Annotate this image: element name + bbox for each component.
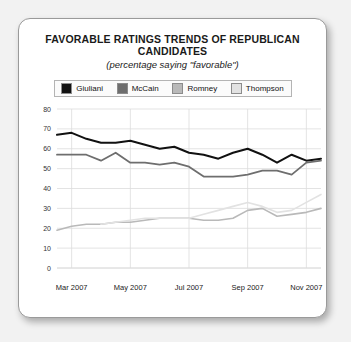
- x-axis-tick-label: Jul 2007: [175, 283, 203, 292]
- legend-swatch-mccain: [117, 83, 128, 94]
- chart-subtitle: (percentage saying "favorable"): [19, 59, 326, 70]
- legend-label-giuliani: Giuliani: [76, 84, 103, 93]
- grid-group: [57, 109, 321, 268]
- y-axis-tick-label: 50: [43, 165, 51, 172]
- legend-item-romney: Romney: [172, 83, 217, 94]
- x-axis-ticks: Mar 2007May 2007Jul 2007Sep 2007Nov 2007: [56, 283, 323, 292]
- y-axis-tick-label: 10: [43, 245, 51, 252]
- legend-item-giuliani: Giuliani: [61, 83, 103, 94]
- chart-legend: Giuliani McCain Romney Thompson: [54, 80, 292, 97]
- legend-label-thompson: Thompson: [246, 84, 284, 93]
- page-title: FAVORABLE RATINGS TRENDS OF REPUBLICAN C…: [19, 33, 326, 57]
- legend-item-mccain: McCain: [117, 83, 159, 94]
- y-axis-tick-label: 0: [47, 265, 51, 272]
- x-axis-tick-label: May 2007: [114, 283, 147, 292]
- x-axis-tick-label: Mar 2007: [56, 283, 88, 292]
- chart-card: FAVORABLE RATINGS TRENDS OF REPUBLICAN C…: [18, 18, 327, 318]
- legend-label-mccain: McCain: [132, 84, 159, 93]
- chart-plot-area: 01020304050607080 Mar 2007May 2007Jul 20…: [19, 97, 328, 297]
- y-axis-ticks: 01020304050607080: [43, 106, 51, 272]
- legend-swatch-romney: [172, 83, 183, 94]
- y-axis-tick-label: 40: [43, 185, 51, 192]
- legend-swatch-thompson: [231, 83, 242, 94]
- y-axis-tick-label: 20: [43, 225, 51, 232]
- y-axis-tick-label: 80: [43, 106, 51, 113]
- y-axis-tick-label: 70: [43, 125, 51, 132]
- legend-swatch-giuliani: [61, 83, 72, 94]
- line-chart: 01020304050607080 Mar 2007May 2007Jul 20…: [19, 97, 328, 297]
- legend-label-romney: Romney: [187, 84, 217, 93]
- y-axis-tick-label: 30: [43, 205, 51, 212]
- legend-item-thompson: Thompson: [231, 83, 284, 94]
- y-axis-tick-label: 60: [43, 145, 51, 152]
- x-axis-tick-label: Sep 2007: [232, 283, 264, 292]
- x-axis-tick-label: Nov 2007: [290, 283, 322, 292]
